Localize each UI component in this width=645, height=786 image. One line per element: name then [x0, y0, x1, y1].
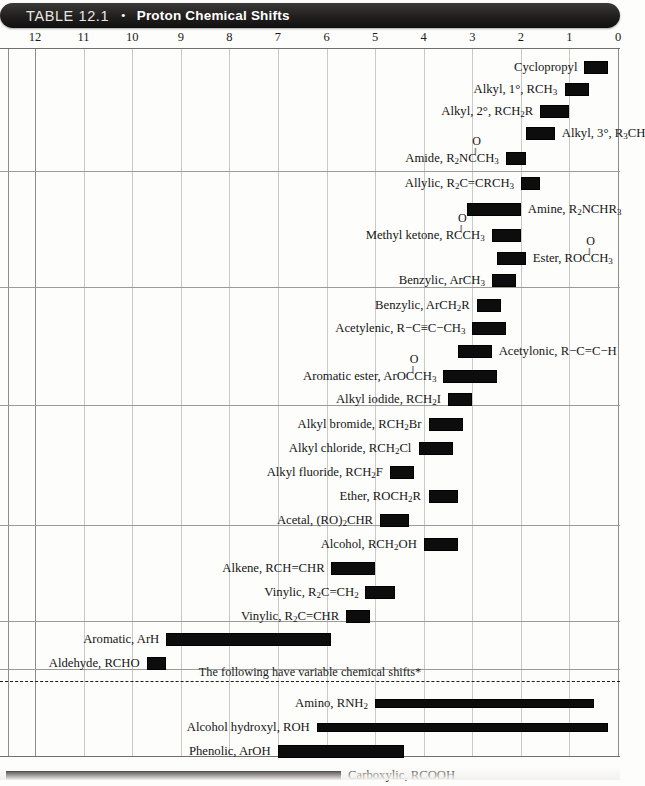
shift-range-bar-acetylenic: [472, 322, 506, 335]
title-separator-dot: •: [121, 8, 126, 24]
shift-range-bar-vinylic-chr: [346, 610, 370, 623]
shift-range-bar-alkyl-fluoride: [390, 466, 414, 479]
shift-row-vinylic-chr: Vinylic, R2C=CHR: [0, 606, 620, 628]
shift-row-acetylenic: Acetylenic, R−C≡C−CH3: [0, 318, 620, 340]
shift-range-bar-vinylic-ch2: [365, 586, 394, 599]
chart-top-border: [0, 48, 620, 49]
shift-range-bar-alcohol: [424, 538, 458, 551]
section-divider-1: [0, 171, 620, 172]
shift-row-benzylic-methylene: Benzylic, ArCH2R: [0, 295, 620, 317]
shift-label-ester: Ester, ROCO‖CH3: [533, 249, 613, 271]
shift-range-bar-amino: [375, 699, 594, 708]
shift-label-allylic: Allylic, R2C=CRCH3: [405, 174, 514, 196]
axis-tick-3: 3: [469, 30, 475, 45]
shift-range-bar-ester: [497, 252, 526, 265]
axis-tick-5: 5: [372, 30, 378, 45]
shift-label-amino: Amino, RNH2: [295, 694, 368, 716]
shift-row-alkyl-chloride: Alkyl chloride, RCH2Cl: [0, 438, 620, 460]
shift-row-alcohol-hydroxyl: Alcohol hydroxyl, ROH: [0, 717, 620, 739]
shift-row-alkyl-bromide: Alkyl bromide, RCH2Br: [0, 414, 620, 436]
shift-range-bar-acetal: [380, 514, 409, 527]
axis-tick-9: 9: [178, 30, 184, 45]
shift-label-phenolic: Phenolic, ArOH: [189, 742, 271, 761]
shift-row-acetal: Acetal, (RO)2CHR: [0, 510, 620, 532]
shift-row-acetylonic: Acetylonic, R−C=C−H: [0, 341, 620, 363]
shift-label-amide: Amide, R2NC⁠O‖CH3: [405, 149, 499, 171]
shift-range-bar-cyclopropyl: [584, 61, 608, 74]
ppm-axis-tick-labels: 1211109876543210: [0, 30, 620, 47]
axis-tick-7: 7: [275, 30, 281, 45]
shift-row-methyl-ketone: Methyl ketone, RCO‖CH3: [0, 225, 620, 247]
table-number: TABLE 12.1: [26, 8, 109, 24]
shift-label-alkyl-tertiary: Alkyl, 3°, R3CH: [562, 124, 645, 146]
shift-range-bar-alkyl-primary: [565, 83, 589, 96]
chemical-shift-chart: CyclopropylAlkyl, 1°, RCH3Alkyl, 2°, RCH…: [0, 48, 620, 757]
shift-label-acetylonic: Acetylonic, R−C=C−H: [499, 342, 617, 361]
shift-range-bar-allylic: [521, 177, 540, 190]
shift-label-alkyl-bromide: Alkyl bromide, RCH2Br: [298, 415, 422, 437]
shift-label-alkyl-iodide: Alkyl iodide, RCH2I: [336, 390, 441, 412]
shift-label-amine: Amine, R2NCHR3: [528, 200, 622, 222]
shift-row-benzylic-methyl: Benzylic, ArCH3: [0, 270, 620, 292]
shift-range-bar-alkyl-iodide: [448, 393, 472, 406]
shift-row-vinylic-ch2: Vinylic, R2C=CH2: [0, 582, 620, 604]
shift-range-bar-aromatic-ester: [443, 370, 496, 383]
shift-range-bar-amine: [467, 203, 520, 216]
shift-range-bar-alkyl-tertiary: [526, 127, 555, 140]
shift-row-phenolic: Phenolic, ArOH: [0, 741, 620, 763]
shift-label-methyl-ketone: Methyl ketone, RCO‖CH3: [366, 226, 485, 248]
shift-range-bar-benzylic-methylene: [477, 299, 501, 312]
shift-row-amine: Amine, R2NCHR3: [0, 199, 620, 221]
axis-tick-11: 11: [78, 30, 90, 45]
axis-tick-1: 1: [566, 30, 572, 45]
shift-label-alkyl-fluoride: Alkyl fluoride, RCH2F: [267, 463, 383, 485]
shift-label-alkene: Alkene, RCH=CHR: [222, 559, 324, 578]
shift-range-bar-alkyl-bromide: [429, 418, 463, 431]
shift-range-bar-alkyl-secondary: [540, 105, 569, 118]
variable-shift-note: The following have variable chemical shi…: [0, 665, 620, 680]
shift-label-vinylic-ch2: Vinylic, R2C=CH2: [264, 583, 358, 605]
shift-range-bar-alkene: [331, 562, 375, 575]
shift-row-alkyl-fluoride: Alkyl fluoride, RCH2F: [0, 462, 620, 484]
shift-label-cyclopropyl: Cyclopropyl: [514, 58, 577, 77]
shift-label-alkyl-secondary: Alkyl, 2°, RCH2R: [441, 102, 533, 124]
shift-row-alkyl-iodide: Alkyl iodide, RCH2I: [0, 389, 620, 411]
shift-row-cyclopropyl: Cyclopropyl: [0, 57, 620, 79]
shift-label-alkyl-primary: Alkyl, 1°, RCH3: [474, 80, 558, 102]
shift-row-alkyl-tertiary: Alkyl, 3°, R3CH: [0, 123, 620, 145]
shift-label-aromatic-ester: Aromatic ester, ArOCO‖CH3: [303, 367, 436, 389]
shift-row-alkyl-secondary: Alkyl, 2°, RCH2R: [0, 101, 620, 123]
shift-label-benzylic-methyl: Benzylic, ArCH3: [399, 271, 485, 293]
shift-range-bar-benzylic-methyl: [492, 274, 516, 287]
shift-row-alcohol: Alcohol, RCH2OH: [0, 534, 620, 556]
shift-row-allylic: Allylic, R2C=CRCH3: [0, 173, 620, 195]
axis-tick-4: 4: [421, 30, 427, 45]
shift-range-bar-phenolic: [278, 745, 404, 758]
shift-row-amino: Amino, RNH2: [0, 693, 620, 715]
table-title-banner: TABLE 12.1 • Proton Chemical Shifts: [0, 3, 620, 28]
shift-range-bar-alkyl-chloride: [419, 442, 453, 455]
shift-range-bar-aromatic: [166, 633, 331, 646]
shift-label-alcohol: Alcohol, RCH2OH: [321, 535, 417, 557]
axis-tick-12: 12: [29, 30, 42, 45]
page-title: Proton Chemical Shifts: [137, 8, 290, 23]
shift-row-alkyl-primary: Alkyl, 1°, RCH3: [0, 79, 620, 101]
shift-label-benzylic-methylene: Benzylic, ArCH2R: [375, 296, 470, 318]
axis-tick-0: 0: [615, 30, 621, 45]
shift-label-alkyl-chloride: Alkyl chloride, RCH2Cl: [289, 439, 412, 461]
shift-row-alkene: Alkene, RCH=CHR: [0, 558, 620, 580]
shift-range-bar-ether: [429, 490, 458, 503]
shift-row-aromatic-ester: Aromatic ester, ArOCO‖CH3: [0, 366, 620, 388]
shift-range-bar-alcohol-hydroxyl: [317, 723, 609, 732]
shift-row-aromatic: Aromatic, ArH: [0, 629, 620, 651]
axis-tick-6: 6: [323, 30, 329, 45]
axis-tick-8: 8: [226, 30, 232, 45]
axis-tick-10: 10: [126, 30, 139, 45]
shift-range-bar-amide: [506, 152, 525, 165]
shift-label-ether: Ether, ROCH2R: [340, 487, 422, 509]
shift-row-ether: Ether, ROCH2R: [0, 486, 620, 508]
shift-row-amide: Amide, R2NC⁠O‖CH3: [0, 148, 620, 170]
variable-shift-divider: [0, 681, 620, 682]
shift-label-acetylenic: Acetylenic, R−C≡C−CH3: [335, 319, 465, 341]
shift-range-bar-acetylonic: [458, 345, 492, 358]
